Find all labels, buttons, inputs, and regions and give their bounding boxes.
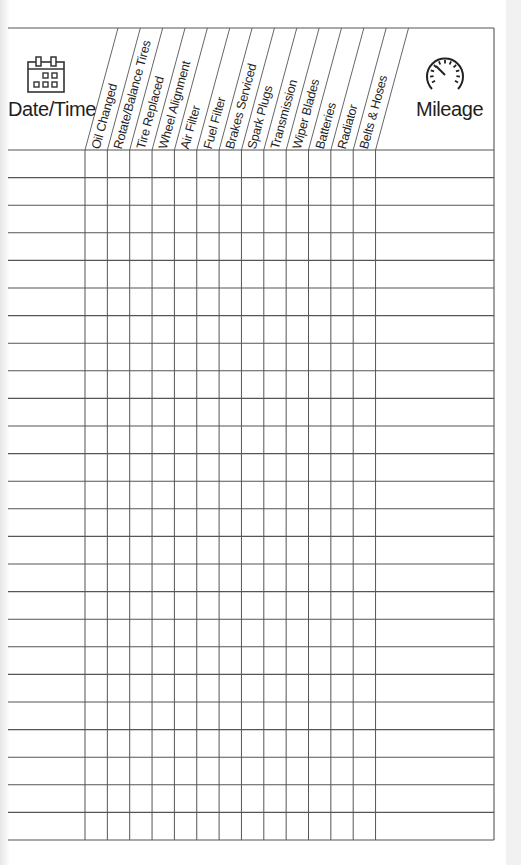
service-cell-fuel-filter[interactable] — [197, 647, 219, 675]
service-cell-fuel-filter[interactable] — [197, 730, 219, 758]
service-cell-oil-changed[interactable] — [85, 316, 107, 344]
mileage-cell[interactable] — [376, 619, 494, 647]
service-cell-radiator[interactable] — [331, 647, 353, 675]
date-time-cell[interactable] — [8, 674, 85, 702]
service-cell-fuel-filter[interactable] — [197, 398, 219, 426]
service-cell-transmission[interactable] — [264, 288, 286, 316]
service-cell-tire-replaced[interactable] — [130, 619, 152, 647]
service-cell-wiper-blades[interactable] — [286, 454, 308, 482]
service-cell-brakes-serviced[interactable] — [219, 592, 241, 620]
service-cell-tire-replaced[interactable] — [130, 343, 152, 371]
service-cell-brakes-serviced[interactable] — [219, 619, 241, 647]
service-cell-spark-plugs[interactable] — [241, 812, 263, 840]
service-cell-spark-plugs[interactable] — [241, 454, 263, 482]
mileage-cell[interactable] — [376, 371, 494, 399]
service-cell-oil-changed[interactable] — [85, 454, 107, 482]
service-cell-rotate-balance-tires[interactable] — [107, 178, 129, 206]
service-cell-fuel-filter[interactable] — [197, 260, 219, 288]
service-cell-oil-changed[interactable] — [85, 260, 107, 288]
service-cell-batteries[interactable] — [309, 481, 331, 509]
service-cell-air-filter[interactable] — [174, 454, 196, 482]
service-cell-spark-plugs[interactable] — [241, 205, 263, 233]
service-cell-air-filter[interactable] — [174, 619, 196, 647]
service-cell-batteries[interactable] — [309, 647, 331, 675]
service-cell-tire-replaced[interactable] — [130, 647, 152, 675]
service-cell-fuel-filter[interactable] — [197, 785, 219, 813]
service-cell-air-filter[interactable] — [174, 426, 196, 454]
service-cell-transmission[interactable] — [264, 371, 286, 399]
service-cell-tire-replaced[interactable] — [130, 426, 152, 454]
service-cell-air-filter[interactable] — [174, 343, 196, 371]
service-cell-belts-hoses[interactable] — [353, 730, 375, 758]
service-cell-brakes-serviced[interactable] — [219, 509, 241, 537]
service-cell-tire-replaced[interactable] — [130, 812, 152, 840]
service-cell-radiator[interactable] — [331, 785, 353, 813]
service-cell-belts-hoses[interactable] — [353, 702, 375, 730]
service-cell-batteries[interactable] — [309, 398, 331, 426]
service-cell-radiator[interactable] — [331, 619, 353, 647]
date-time-cell[interactable] — [8, 371, 85, 399]
mileage-cell[interactable] — [376, 233, 494, 261]
service-cell-rotate-balance-tires[interactable] — [107, 150, 129, 178]
service-cell-wheel-alignment[interactable] — [152, 316, 174, 344]
service-cell-brakes-serviced[interactable] — [219, 674, 241, 702]
service-cell-fuel-filter[interactable] — [197, 371, 219, 399]
service-cell-transmission[interactable] — [264, 150, 286, 178]
service-cell-transmission[interactable] — [264, 178, 286, 206]
service-cell-wheel-alignment[interactable] — [152, 150, 174, 178]
date-time-cell[interactable] — [8, 398, 85, 426]
service-cell-air-filter[interactable] — [174, 757, 196, 785]
service-cell-spark-plugs[interactable] — [241, 371, 263, 399]
service-cell-brakes-serviced[interactable] — [219, 785, 241, 813]
mileage-cell[interactable] — [376, 592, 494, 620]
service-cell-spark-plugs[interactable] — [241, 509, 263, 537]
service-cell-oil-changed[interactable] — [85, 371, 107, 399]
service-cell-tire-replaced[interactable] — [130, 288, 152, 316]
service-cell-rotate-balance-tires[interactable] — [107, 260, 129, 288]
service-cell-tire-replaced[interactable] — [130, 371, 152, 399]
date-time-cell[interactable] — [8, 592, 85, 620]
date-time-cell[interactable] — [8, 647, 85, 675]
service-cell-wheel-alignment[interactable] — [152, 233, 174, 261]
service-cell-rotate-balance-tires[interactable] — [107, 619, 129, 647]
date-time-cell[interactable] — [8, 785, 85, 813]
service-cell-spark-plugs[interactable] — [241, 592, 263, 620]
service-cell-radiator[interactable] — [331, 260, 353, 288]
service-cell-radiator[interactable] — [331, 343, 353, 371]
service-cell-spark-plugs[interactable] — [241, 536, 263, 564]
service-cell-brakes-serviced[interactable] — [219, 481, 241, 509]
service-cell-oil-changed[interactable] — [85, 481, 107, 509]
service-cell-oil-changed[interactable] — [85, 619, 107, 647]
service-cell-transmission[interactable] — [264, 812, 286, 840]
service-cell-oil-changed[interactable] — [85, 150, 107, 178]
service-cell-tire-replaced[interactable] — [130, 454, 152, 482]
service-cell-rotate-balance-tires[interactable] — [107, 785, 129, 813]
service-cell-wiper-blades[interactable] — [286, 233, 308, 261]
service-cell-wiper-blades[interactable] — [286, 343, 308, 371]
service-cell-wiper-blades[interactable] — [286, 371, 308, 399]
service-cell-tire-replaced[interactable] — [130, 592, 152, 620]
service-cell-transmission[interactable] — [264, 481, 286, 509]
service-cell-rotate-balance-tires[interactable] — [107, 702, 129, 730]
mileage-cell[interactable] — [376, 205, 494, 233]
service-cell-fuel-filter[interactable] — [197, 343, 219, 371]
service-cell-wiper-blades[interactable] — [286, 150, 308, 178]
service-cell-batteries[interactable] — [309, 785, 331, 813]
service-cell-oil-changed[interactable] — [85, 564, 107, 592]
service-cell-batteries[interactable] — [309, 509, 331, 537]
service-cell-spark-plugs[interactable] — [241, 481, 263, 509]
service-cell-wiper-blades[interactable] — [286, 178, 308, 206]
service-cell-transmission[interactable] — [264, 316, 286, 344]
service-cell-belts-hoses[interactable] — [353, 812, 375, 840]
service-cell-rotate-balance-tires[interactable] — [107, 730, 129, 758]
service-cell-batteries[interactable] — [309, 454, 331, 482]
date-time-cell[interactable] — [8, 260, 85, 288]
date-time-cell[interactable] — [8, 757, 85, 785]
service-cell-batteries[interactable] — [309, 343, 331, 371]
date-time-cell[interactable] — [8, 343, 85, 371]
service-cell-rotate-balance-tires[interactable] — [107, 454, 129, 482]
service-cell-transmission[interactable] — [264, 674, 286, 702]
service-cell-rotate-balance-tires[interactable] — [107, 205, 129, 233]
service-cell-rotate-balance-tires[interactable] — [107, 812, 129, 840]
service-cell-tire-replaced[interactable] — [130, 150, 152, 178]
